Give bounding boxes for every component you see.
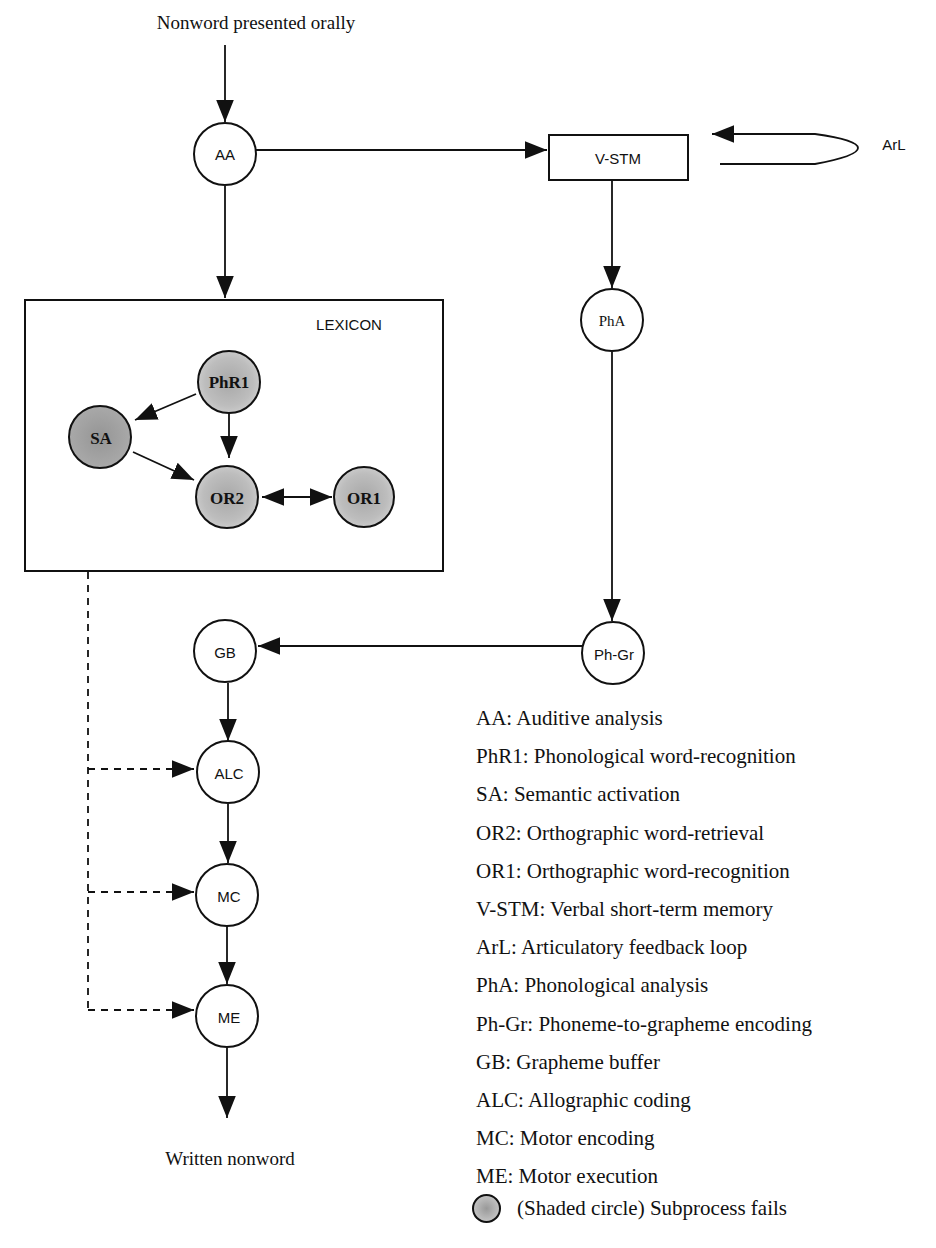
node-phr1-label: PhR1 bbox=[209, 373, 250, 392]
node-phgr-label: Ph-Gr bbox=[594, 646, 634, 663]
legend-item: ArL: Articulatory feedback loop bbox=[476, 933, 812, 971]
legend-item: V-STM: Verbal short-term memory bbox=[476, 895, 812, 933]
legend-item: MC: Motor encoding bbox=[476, 1124, 812, 1162]
shaded-circle-icon bbox=[472, 1194, 501, 1223]
shaded-note-text: (Shaded circle) Subprocess fails bbox=[517, 1196, 787, 1221]
node-pha-label: PhA bbox=[599, 313, 626, 329]
output-label: Written nonword bbox=[70, 1148, 390, 1170]
legend-item: PhR1: Phonological word-recognition bbox=[476, 742, 812, 780]
node-mc-label: MC bbox=[217, 888, 240, 905]
legend-item: PhA: Phonological analysis bbox=[476, 971, 812, 1009]
node-vstm-label: V-STM bbox=[595, 150, 641, 167]
legend-shaded-note: (Shaded circle) Subprocess fails bbox=[472, 1194, 787, 1223]
edge-phr1-sa bbox=[135, 394, 196, 420]
legend-item: AA: Auditive analysis bbox=[476, 704, 812, 742]
legend-item: Ph-Gr: Phoneme-to-grapheme encoding bbox=[476, 1010, 812, 1048]
node-gb-label: GB bbox=[214, 644, 236, 661]
node-or1-label: OR1 bbox=[347, 489, 381, 508]
dashed-lexicon-links bbox=[88, 572, 194, 1010]
node-aa-label: AA bbox=[215, 146, 235, 163]
node-or2-label: OR2 bbox=[210, 489, 244, 508]
edge-sa-or2 bbox=[133, 452, 194, 480]
edge-arl-loop bbox=[712, 134, 858, 164]
input-label: Nonword presented orally bbox=[0, 12, 512, 34]
node-arl-label: ArL bbox=[882, 136, 905, 153]
legend-item: OR1: Orthographic word-recognition bbox=[476, 857, 812, 895]
legend-item: SA: Semantic activation bbox=[476, 780, 812, 818]
legend: AA: Auditive analysis PhR1: Phonological… bbox=[476, 704, 812, 1200]
node-sa-label: SA bbox=[90, 429, 112, 448]
legend-item: ALC: Allographic coding bbox=[476, 1086, 812, 1124]
lexicon-label: LEXICON bbox=[316, 316, 382, 333]
legend-item: OR2: Orthographic word-retrieval bbox=[476, 819, 812, 857]
node-me-label: ME bbox=[218, 1009, 241, 1026]
legend-item: GB: Grapheme buffer bbox=[476, 1048, 812, 1086]
node-alc-label: ALC bbox=[214, 765, 243, 782]
